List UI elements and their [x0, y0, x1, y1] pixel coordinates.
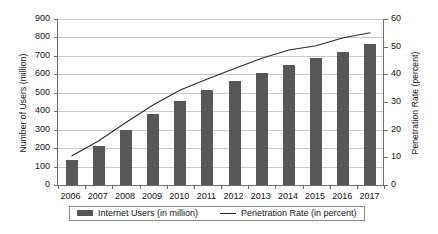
chart-container: Number of Users (million) Penetration Ra…	[0, 0, 438, 234]
legend-label-internet-users: Internet Users (in million)	[98, 208, 198, 218]
y-axis-left-tick-label: 800	[24, 31, 50, 41]
x-tickmark	[167, 185, 168, 189]
y-axis-right-tick-label: 40	[391, 68, 417, 78]
x-tickmark	[140, 185, 141, 189]
legend-label-penetration-rate: Penetration Rate (in percent)	[241, 208, 357, 218]
x-tickmark	[275, 185, 276, 189]
y-axis-right-line	[383, 19, 384, 185]
y-tickmark-right	[384, 157, 388, 158]
legend-item-penetration-rate: Penetration Rate (in percent)	[220, 208, 357, 218]
penetration-rate-line	[58, 19, 384, 185]
y-tickmark-right	[384, 130, 388, 131]
y-axis-left-tick-label: 400	[24, 105, 50, 115]
legend-bar-swatch-icon	[77, 210, 93, 216]
legend-item-internet-users: Internet Users (in million)	[77, 208, 198, 218]
y-axis-right-tick-label: 30	[391, 96, 417, 106]
legend-line-swatch-icon	[220, 213, 236, 214]
x-tickmark	[58, 185, 59, 189]
x-tickmark	[384, 185, 385, 189]
x-tickmark	[248, 185, 249, 189]
chart-legend: Internet Users (in million) Penetration …	[69, 206, 365, 221]
y-axis-left-tick-label: 200	[24, 142, 50, 152]
y-axis-right-tick-label: 10	[391, 151, 417, 161]
y-tickmark-right	[384, 102, 388, 103]
y-axis-right-tick-label: 50	[391, 41, 417, 51]
y-tickmark-right	[384, 74, 388, 75]
x-tickmark	[85, 185, 86, 189]
plot-area	[57, 19, 384, 186]
x-tickmark	[357, 185, 358, 189]
x-tickmark	[221, 185, 222, 189]
y-axis-left-tick-label: 0	[24, 179, 50, 189]
y-axis-right-tick-label: 60	[391, 13, 417, 23]
x-tickmark	[303, 185, 304, 189]
y-axis-left-tick-label: 600	[24, 68, 50, 78]
x-axis-tick-label: 2017	[349, 191, 389, 201]
y-axis-left-tick-label: 700	[24, 50, 50, 60]
x-tickmark	[194, 185, 195, 189]
y-axis-left-tick-label: 100	[24, 161, 50, 171]
y-axis-left-tick-label: 900	[24, 13, 50, 23]
x-tickmark	[330, 185, 331, 189]
y-axis-right-tick-label: 0	[391, 179, 417, 189]
y-axis-left-tick-label: 300	[24, 124, 50, 134]
y-tickmark-right	[384, 19, 388, 20]
y-axis-left-tick-label: 500	[24, 87, 50, 97]
x-tickmark	[112, 185, 113, 189]
y-axis-right-tick-label: 20	[391, 124, 417, 134]
y-tickmark-right	[384, 47, 388, 48]
